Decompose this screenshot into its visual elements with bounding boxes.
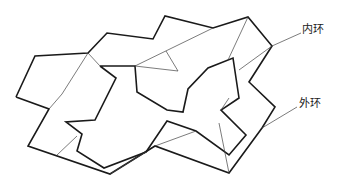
- inner-ring-label: 内环: [302, 24, 324, 35]
- inner-ring-leader: [272, 33, 301, 46]
- outer-ring-label: 外环: [299, 98, 321, 109]
- inner-ring-path: [66, 58, 246, 168]
- outer-ring-path: [16, 16, 275, 174]
- ring-diagram: [0, 0, 344, 188]
- outer-ring-leader: [262, 107, 297, 128]
